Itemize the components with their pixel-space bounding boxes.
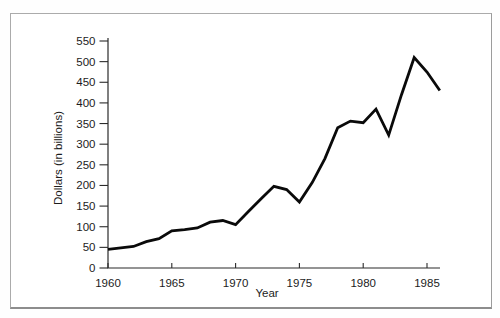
x-axis-label: Year [255,287,278,299]
y-tick-label: 450 [76,76,95,88]
y-tick-label: 0 [89,262,95,274]
x-tick-label: 1975 [287,277,313,289]
y-tick-label: 350 [76,118,95,130]
x-tick-label: 1970 [223,277,249,289]
x-tick-group: 196019651970197519801985 [95,263,440,289]
y-tick-label: 250 [76,159,95,171]
y-tick-label: 100 [76,221,95,233]
axes [108,38,440,268]
y-tick-label: 200 [76,179,95,191]
x-tick-label: 1965 [159,277,185,289]
y-tick-label: 400 [76,97,95,109]
y-axis-label: Dollars (in billions) [52,111,64,205]
y-tick-group: 050100150200250300350400450500550 [76,35,108,274]
x-tick-label: 1985 [414,277,440,289]
x-tick-label: 1960 [95,277,121,289]
y-tick-label: 150 [76,200,95,212]
x-tick-label: 1980 [350,277,376,289]
y-tick-label: 300 [76,138,95,150]
y-tick-label: 500 [76,56,95,68]
line-chart: 050100150200250300350400450500550 196019… [0,0,500,318]
data-line-series [108,58,440,250]
y-tick-label: 550 [76,35,95,47]
y-tick-label: 50 [83,241,96,253]
